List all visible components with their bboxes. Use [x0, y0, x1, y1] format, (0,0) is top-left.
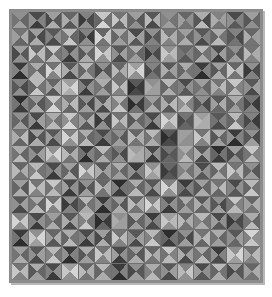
- quilt-cell: [227, 130, 243, 146]
- quilt-cell: [79, 264, 95, 280]
- quilt-cell: [211, 247, 227, 263]
- quilt-cell: [12, 96, 28, 112]
- quilt-cell: [227, 163, 243, 179]
- quilt-cell: [46, 79, 62, 95]
- quilt-cell: [227, 63, 243, 79]
- quilt-cell: [244, 29, 260, 45]
- quilt-cell: [128, 180, 144, 196]
- quilt-cell: [95, 213, 111, 229]
- quilt-cell: [145, 213, 161, 229]
- quilt-cell: [62, 130, 78, 146]
- quilt-cell: [79, 12, 95, 28]
- quilt-cell: [244, 146, 260, 162]
- quilt-cell: [62, 29, 78, 45]
- quilt-cell: [62, 46, 78, 62]
- quilt-cell: [62, 96, 78, 112]
- quilt-cell: [145, 146, 161, 162]
- frame-shadow-bottom: [11, 283, 265, 285]
- quilt-cell: [46, 163, 62, 179]
- quilt-cell: [29, 46, 45, 62]
- quilt-cell: [62, 213, 78, 229]
- quilt-cell: [112, 146, 128, 162]
- quilt-cell: [46, 130, 62, 146]
- quilt-cell: [29, 130, 45, 146]
- quilt-cell: [12, 197, 28, 213]
- quilt-cell: [244, 96, 260, 112]
- quilt-cell: [145, 63, 161, 79]
- quilt-cell: [62, 146, 78, 162]
- quilt-cell: [244, 230, 260, 246]
- quilt-cell: [178, 113, 194, 129]
- quilt-cell: [95, 46, 111, 62]
- quilt-cell: [227, 96, 243, 112]
- quilt-cell: [12, 113, 28, 129]
- quilt-cell: [29, 163, 45, 179]
- quilt-cell: [178, 213, 194, 229]
- quilt-cell: [112, 12, 128, 28]
- quilt-cell: [95, 63, 111, 79]
- quilt-cell: [29, 12, 45, 28]
- quilt-cell: [95, 130, 111, 146]
- quilt-cell: [62, 247, 78, 263]
- quilt-cell: [29, 197, 45, 213]
- quilt-cell: [112, 130, 128, 146]
- quilt-cell: [12, 29, 28, 45]
- quilt-cell: [178, 163, 194, 179]
- quilt-cell: [46, 96, 62, 112]
- quilt-cell: [29, 113, 45, 129]
- quilt-cell: [29, 180, 45, 196]
- quilt-cell: [29, 213, 45, 229]
- quilt-cell: [12, 46, 28, 62]
- quilt-cell: [46, 46, 62, 62]
- quilt-cell: [128, 96, 144, 112]
- quilt-cell: [62, 113, 78, 129]
- quilt-cell: [145, 46, 161, 62]
- quilt-cell: [29, 230, 45, 246]
- quilt-cell: [194, 130, 210, 146]
- quilt-cell: [79, 180, 95, 196]
- quilt-cell: [95, 163, 111, 179]
- quilt-cell: [112, 79, 128, 95]
- quilt-cell: [29, 146, 45, 162]
- quilt-cell: [128, 12, 144, 28]
- quilt-cell: [178, 96, 194, 112]
- quilt-cell: [128, 46, 144, 62]
- quilt-cell: [12, 146, 28, 162]
- quilt-cell: [112, 46, 128, 62]
- quilt-cell: [227, 29, 243, 45]
- quilt-cell: [227, 113, 243, 129]
- quilt-cell: [46, 213, 62, 229]
- quilt-cell: [62, 12, 78, 28]
- quilt-cell: [161, 96, 177, 112]
- quilt-cell: [161, 12, 177, 28]
- quilt-cell: [227, 230, 243, 246]
- quilt-cell: [211, 130, 227, 146]
- quilt-cell: [211, 163, 227, 179]
- quilt-cell: [244, 163, 260, 179]
- quilt-cell: [244, 213, 260, 229]
- quilt-cell: [46, 113, 62, 129]
- quilt-cell: [194, 113, 210, 129]
- quilt-cell: [112, 264, 128, 280]
- quilt-cell: [79, 163, 95, 179]
- quilt-cell: [46, 146, 62, 162]
- quilt-cell: [161, 63, 177, 79]
- quilt-cell: [227, 197, 243, 213]
- quilt-cell: [211, 113, 227, 129]
- quilt-cell: [112, 63, 128, 79]
- quilt-cell: [79, 146, 95, 162]
- quilt-cell: [95, 180, 111, 196]
- quilt-cell: [79, 230, 95, 246]
- quilt-cell: [145, 197, 161, 213]
- quilt-frame: [9, 9, 263, 283]
- artwork-page: [0, 0, 272, 297]
- quilt-cell: [29, 79, 45, 95]
- quilt-cell: [112, 230, 128, 246]
- quilt-cell: [161, 113, 177, 129]
- quilt-cell: [194, 146, 210, 162]
- quilt-cell: [128, 146, 144, 162]
- quilt-cell: [244, 180, 260, 196]
- quilt-cell: [12, 63, 28, 79]
- quilt-cell: [161, 213, 177, 229]
- quilt-cell: [12, 264, 28, 280]
